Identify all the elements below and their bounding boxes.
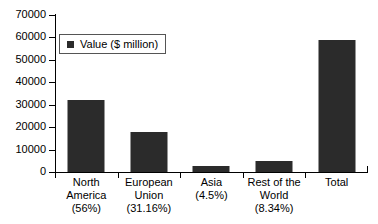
chart-figure: 700006000050000400003000020000100000 Nor… (0, 0, 378, 224)
bar[interactable] (193, 166, 230, 172)
x-axis-line (55, 172, 368, 173)
category-label-line: America (55, 189, 118, 202)
x-axis-category-label: NorthAmerica(56%) (55, 176, 118, 215)
bar[interactable] (256, 161, 293, 172)
x-axis-category-label: EuropeanUnion(31.16%) (118, 176, 181, 215)
y-axis-tick-label: 60000 (15, 31, 46, 42)
category-label-line: Asia (180, 176, 243, 189)
bar-slot (243, 15, 306, 172)
category-label-line: Union (118, 189, 181, 202)
y-axis-tick-label: 50000 (15, 54, 46, 65)
bar-slot (180, 15, 243, 172)
y-axis-tick-label: 40000 (15, 76, 46, 87)
category-label-line: European (118, 176, 181, 189)
y-axis-tick-label: 10000 (15, 144, 46, 155)
x-axis-category-label: Rest of theWorld(8.34%) (243, 176, 306, 215)
bar-slot (305, 15, 368, 172)
category-label-line: (31.16%) (118, 202, 181, 215)
y-axis-tick-label: 20000 (15, 121, 46, 132)
category-label-line: Rest of the (243, 176, 306, 189)
category-label-line: World (243, 189, 306, 202)
bar[interactable] (130, 132, 167, 172)
x-axis-category-labels: NorthAmerica(56%)EuropeanUnion(31.16%)As… (55, 176, 368, 224)
category-label-line: Total (305, 176, 368, 189)
bar[interactable] (318, 40, 355, 172)
y-axis-tick-label: 0 (40, 166, 46, 177)
category-label-line: (56%) (55, 202, 118, 215)
x-axis-category-label: Total (305, 176, 368, 189)
legend-swatch-icon (67, 41, 74, 48)
category-label-line: (8.34%) (243, 202, 306, 215)
chart-legend: Value ($ million) (59, 34, 166, 54)
legend-label: Value ($ million) (80, 39, 158, 50)
x-axis-category-label: Asia(4.5%) (180, 176, 243, 202)
y-axis-tick-label: 70000 (15, 9, 46, 20)
category-label-line: North (55, 176, 118, 189)
bar[interactable] (68, 100, 105, 172)
y-axis-tick-label: 30000 (15, 99, 46, 110)
category-label-line: (4.5%) (180, 189, 243, 202)
